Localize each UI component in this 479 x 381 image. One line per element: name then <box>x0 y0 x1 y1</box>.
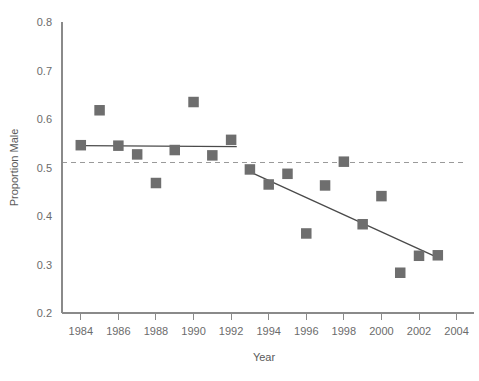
x-tick-label: 1984 <box>69 325 93 337</box>
data-point <box>414 251 425 262</box>
data-point <box>169 145 180 156</box>
data-point <box>132 149 143 160</box>
data-point <box>320 180 331 191</box>
late-declining-fit <box>250 172 438 258</box>
x-tick-label: 2000 <box>369 325 393 337</box>
y-tick-label: 0.8 <box>37 16 52 28</box>
data-point <box>395 267 406 278</box>
x-tick-label: 2002 <box>407 325 431 337</box>
y-tick-label: 0.5 <box>37 162 52 174</box>
data-point <box>357 219 368 230</box>
data-point <box>263 179 274 190</box>
data-point <box>226 135 237 146</box>
data-point <box>113 140 124 151</box>
early-flat-fit <box>81 146 237 147</box>
x-tick-label: 1988 <box>144 325 168 337</box>
data-point <box>301 228 312 239</box>
x-tick-label: 1998 <box>332 325 356 337</box>
data-point <box>188 97 199 108</box>
axis-layer <box>62 22 474 320</box>
data-point <box>207 150 218 161</box>
data-point <box>151 178 162 189</box>
y-tick-label: 0.4 <box>37 210 52 222</box>
x-tick-label: 1994 <box>256 325 280 337</box>
x-tick-label: 1990 <box>181 325 205 337</box>
data-point <box>94 105 105 116</box>
data-point <box>245 164 256 175</box>
y-tick-label: 0.6 <box>37 113 52 125</box>
x-tick-label: 1996 <box>294 325 318 337</box>
scatter-chart: 0.20.30.40.50.60.70.81984198619881990199… <box>0 0 479 381</box>
data-point-layer <box>76 97 444 278</box>
data-point <box>376 191 387 202</box>
x-axis-title: Year <box>253 351 276 363</box>
plot-area: 0.20.30.40.50.60.70.81984198619881990199… <box>0 0 479 381</box>
x-tick-label: 2004 <box>444 325 468 337</box>
data-point <box>339 156 350 167</box>
x-tick-label: 1992 <box>219 325 243 337</box>
y-tick-label: 0.2 <box>37 307 52 319</box>
y-tick-label: 0.3 <box>37 259 52 271</box>
x-tick-label: 1986 <box>106 325 130 337</box>
data-point <box>282 169 293 180</box>
data-point <box>433 250 444 261</box>
y-tick-label: 0.7 <box>37 65 52 77</box>
tick-label-layer: 0.20.30.40.50.60.70.81984198619881990199… <box>37 16 469 337</box>
y-axis-title: Proportion Male <box>8 129 20 207</box>
data-point <box>76 140 87 151</box>
